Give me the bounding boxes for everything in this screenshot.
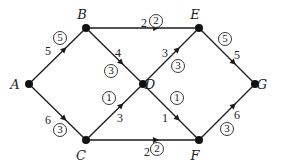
capacity-label: 4 bbox=[115, 46, 121, 60]
edge-line bbox=[86, 84, 143, 140]
flow-badge: 3 bbox=[172, 59, 185, 72]
edge-c-d bbox=[86, 84, 143, 140]
flow-badge: 1 bbox=[103, 91, 116, 104]
flow-label: 2 bbox=[153, 14, 159, 26]
flow-badge: 3 bbox=[54, 123, 67, 136]
node-dot-icon bbox=[82, 24, 90, 32]
capacity-label: 2 bbox=[141, 16, 147, 30]
node-label: F bbox=[189, 148, 200, 163]
node-c: C bbox=[76, 136, 90, 163]
node-label: E bbox=[189, 7, 200, 22]
capacity-label: 1 bbox=[162, 111, 168, 125]
edge-d-e bbox=[143, 28, 199, 84]
flow-label: 3 bbox=[224, 122, 230, 134]
edge-c-f bbox=[86, 137, 199, 143]
flow-label: 2 bbox=[154, 142, 160, 154]
node-label: A bbox=[9, 77, 19, 92]
flow-label: 1 bbox=[106, 91, 112, 103]
node-label: D bbox=[144, 77, 156, 92]
node-label: G bbox=[257, 77, 267, 92]
capacity-label: 6 bbox=[234, 108, 240, 122]
flow-badge: 2 bbox=[150, 14, 163, 27]
flow-badge: 3 bbox=[221, 122, 234, 135]
flow-label: 5 bbox=[57, 31, 63, 43]
flow-label: 3 bbox=[57, 123, 63, 135]
node-label: B bbox=[76, 7, 87, 22]
node-g: G bbox=[251, 77, 267, 92]
flow-label: 3 bbox=[175, 59, 181, 71]
flow-badge: 1 bbox=[171, 91, 184, 104]
flow-badge: 3 bbox=[105, 64, 118, 77]
edge-d-f bbox=[143, 84, 199, 140]
diagram-canvas: 55632243312233115563 ABCDEFG bbox=[0, 0, 281, 168]
capacity-label: 5 bbox=[234, 48, 240, 62]
capacity-label: 5 bbox=[45, 44, 51, 58]
flow-badge: 5 bbox=[54, 31, 67, 44]
node-b: B bbox=[76, 7, 90, 32]
edge-line bbox=[143, 28, 199, 84]
flow-label: 5 bbox=[222, 32, 228, 44]
flow-label: 3 bbox=[108, 64, 114, 76]
node-dot-icon bbox=[25, 80, 33, 88]
node-d: D bbox=[139, 77, 156, 92]
node-a: A bbox=[9, 77, 33, 92]
capacity-label: 3 bbox=[162, 46, 168, 60]
edge-line bbox=[143, 84, 199, 140]
capacity-label: 2 bbox=[144, 145, 150, 159]
capacity-label: 6 bbox=[45, 113, 51, 127]
node-dot-icon bbox=[82, 136, 90, 144]
capacity-label: 3 bbox=[117, 111, 123, 125]
flow-label: 1 bbox=[174, 91, 180, 103]
flow-badge: 5 bbox=[219, 32, 232, 45]
node-dot-icon bbox=[195, 136, 203, 144]
node-label: C bbox=[76, 148, 86, 163]
node-dot-icon bbox=[195, 24, 203, 32]
flow-badge: 2 bbox=[151, 142, 164, 155]
network-flow-diagram: 55632243312233115563 ABCDEFG bbox=[0, 0, 281, 168]
